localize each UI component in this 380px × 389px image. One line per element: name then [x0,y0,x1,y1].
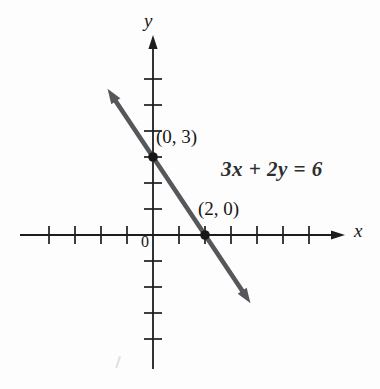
y-axis-label: y [144,11,152,32]
origin-label: 0 [132,233,149,251]
linear-equation-graph-figure: y x 0 (0, 3) (2, 0) 3x + 2y = 6 [0,0,380,389]
point-label-x-intercept: (2, 0) [198,199,239,220]
x-axis-label: x [354,221,362,242]
coordinate-plane [0,0,380,389]
equation-label: 3x + 2y = 6 [221,158,323,181]
point-label-y-intercept: (0, 3) [156,127,197,148]
